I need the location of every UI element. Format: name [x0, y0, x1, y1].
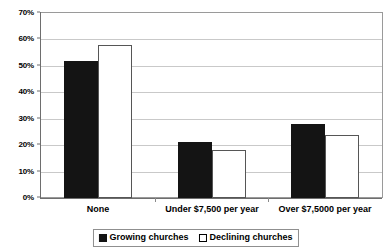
bar-declining — [98, 45, 132, 198]
y-axis: 70%60%50%40%30%20%10%0% — [0, 0, 40, 250]
legend-label-growing: Growing churches — [109, 232, 188, 243]
y-axis-tick-label: 50% — [19, 60, 34, 69]
bar-growing — [178, 142, 212, 198]
bar-growing — [64, 61, 98, 198]
x-axis-label: None — [87, 203, 110, 215]
legend-item-declining: Declining churches — [198, 232, 292, 243]
x-axis-labels: NoneUnder $7,500 per yearOver $7,5000 pe… — [40, 203, 383, 219]
x-axis-label: Under $7,500 per year — [165, 203, 259, 215]
x-axis-separator — [155, 198, 156, 202]
gridline — [41, 198, 382, 199]
legend-item-growing: Growing churches — [98, 232, 188, 243]
y-axis-tick-label: 40% — [19, 87, 34, 96]
bar-growing — [291, 124, 325, 198]
y-axis-tick-label: 10% — [19, 166, 34, 175]
bar-declining — [212, 150, 246, 198]
legend-swatch-filled-square-icon — [98, 234, 106, 242]
y-axis-tick-label: 70% — [19, 8, 34, 17]
legend-label-declining: Declining churches — [209, 232, 292, 243]
y-axis-tick-label: 0% — [23, 193, 34, 202]
y-axis-tick-label: 30% — [19, 113, 34, 122]
x-axis-separator — [268, 198, 269, 202]
legend-swatch-outlined-square-icon — [198, 234, 206, 242]
bars-layer — [41, 13, 382, 198]
y-axis-tick-label: 60% — [19, 34, 34, 43]
y-axis-tick-label: 20% — [19, 140, 34, 149]
bar-declining — [325, 135, 359, 198]
x-axis-label: Over $7,5000 per year — [278, 203, 371, 215]
bar-chart: 70%60%50%40%30%20%10%0% NoneUnder $7,500… — [0, 0, 391, 250]
chart-legend: Growing churches Declining churches — [92, 229, 298, 247]
